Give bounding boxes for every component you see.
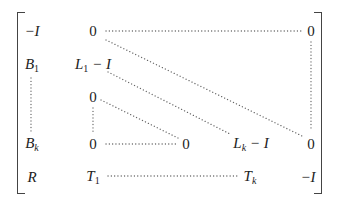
entry-r5c5: −I: [300, 170, 315, 185]
diagonal-dots-top: [106, 40, 302, 136]
entry-r5c1: R: [27, 170, 36, 185]
entry-r3c2: 0: [89, 90, 97, 105]
entry-r4c4: Lk − I: [233, 136, 268, 153]
entry-r1c5: 0: [307, 24, 315, 39]
entry-r4c2: 0: [89, 137, 97, 152]
entry-r5c4: Tk: [244, 169, 257, 186]
entry-r4c3: 0: [182, 137, 190, 152]
entry-r5c2-sub: 1: [95, 175, 100, 186]
diagonal-dots-L: [108, 72, 230, 134]
entry-r4c4-tail: − I: [246, 135, 269, 151]
entry-r1c1: −I: [24, 24, 39, 39]
entry-r4c1-base: B: [25, 135, 34, 151]
entry-r5c2: T1: [86, 169, 99, 186]
entry-r5c4-sub: k: [252, 175, 256, 186]
block-matrix: −I 0 0 B1 L1 − I 0 Bk 0 0 Lk − I 0 R T1 …: [0, 0, 338, 203]
entry-r1c2: 0: [89, 24, 97, 39]
ellipsis-layer: [0, 0, 338, 203]
entry-r4c1: Bk: [25, 136, 39, 153]
diagonal-dots-inner: [101, 100, 178, 138]
entry-r2c1-sub: 1: [34, 63, 39, 74]
entry-r2c2: L1 − I: [75, 57, 111, 74]
entry-r4c5: 0: [307, 137, 315, 152]
entry-r2c1: B1: [25, 57, 39, 74]
entry-r4c1-sub: k: [34, 142, 38, 153]
entry-r2c2-tail: − I: [88, 56, 111, 72]
entry-r2c1-base: B: [25, 56, 34, 72]
